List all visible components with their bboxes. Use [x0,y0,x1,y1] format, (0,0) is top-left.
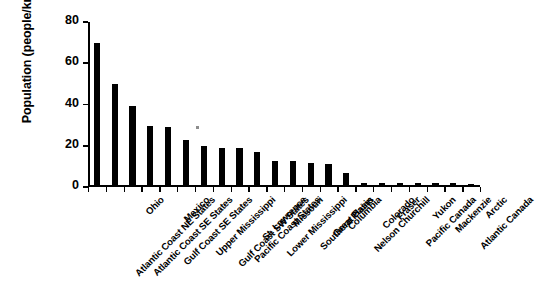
y-axis-tick-label: 60 [65,54,79,68]
x-axis-tick [213,187,214,192]
bar [183,140,189,185]
x-axis-tick [248,187,249,192]
x-axis-label: Missouri [290,194,325,229]
y-axis-tick-label: 40 [65,96,79,110]
x-axis-tick [231,187,232,192]
bar [112,84,118,185]
x-axis-tick [195,187,196,192]
y-axis-tick: 40 [83,104,88,106]
x-axis-label: Mackenzie [453,194,494,235]
bar [219,148,225,185]
bar [361,183,367,185]
y-axis-tick: 80 [83,21,88,23]
bar [325,164,331,186]
bar [165,127,171,186]
bar [236,148,242,185]
bar [343,173,349,185]
bar [290,161,296,186]
x-axis-tick [106,187,107,192]
plot-area: 020406080 [88,22,480,187]
y-axis-tick-label: 0 [72,178,79,192]
x-axis-label: Nelson Churchill [372,194,432,254]
bar [450,183,456,185]
x-axis-tick [320,187,321,192]
x-axis-label: St. Lawrence [260,194,308,242]
x-axis-tick [302,187,303,192]
bar [432,183,438,185]
y-axis-tick-label: 80 [65,13,79,27]
x-axis-label: Atlantic Canada [478,194,535,251]
x-axis-tick [141,187,142,192]
bar [254,152,260,185]
y-axis-tick: 20 [83,145,88,147]
x-axis-tick [284,187,285,192]
x-axis-tick [355,187,356,192]
x-axis-tick [177,187,178,192]
x-axis-label: Yukon [430,194,458,222]
bar [397,183,403,185]
x-axis-tick [337,187,338,192]
y-axis-line [88,22,90,187]
x-axis-label: Atlantic Coast SE States [150,194,234,278]
x-axis-tick [391,187,392,192]
x-axis-label: Mexico [181,194,211,224]
x-axis-label: Columbia [345,194,383,232]
x-axis-tick [480,187,481,192]
bar [272,161,278,186]
x-axis-tick [409,187,410,192]
x-axis-tick [444,187,445,192]
bar [379,183,385,185]
y-axis-tick: 60 [83,62,88,64]
bar [129,106,135,185]
x-axis-tick [266,187,267,192]
x-axis-tick [88,187,89,192]
x-axis-label: Gulf Coast SE States [181,194,254,267]
bar [147,126,153,186]
y-axis-title: Population (people/km2) [20,0,34,143]
x-axis-label: Colorado [380,194,417,231]
x-axis-label: Lower Mississippi [285,194,349,258]
x-axis-tick [124,187,125,192]
y-axis-title-text: Population (people/km [20,0,34,123]
x-axis-label: Pacific Canada [423,194,478,249]
bar [415,183,421,185]
bar [94,43,100,185]
x-axis-tick [462,187,463,192]
x-axis-tick [373,187,374,192]
scan-artifact-speck [196,126,199,129]
x-axis-label: Fraser [394,194,422,222]
bar [308,163,314,186]
x-axis-label: Ohio [143,194,166,217]
y-axis-tick-label: 20 [65,137,79,151]
x-axis-tick [159,187,160,192]
x-axis-label: Gulf Coast SW States [236,194,311,269]
x-axis-label: Pacific Coast States [252,194,323,265]
bar [468,184,474,185]
x-axis-label: Southern Plains [318,194,376,252]
x-axis-label: Arctic [483,194,509,220]
x-axis-label: Upper Mississippi [213,194,277,258]
bar [201,146,207,185]
x-axis-tick [427,187,428,192]
x-axis-label: Atlantic Coast NE States [133,194,217,278]
x-axis-label: Great Basin [330,194,375,239]
